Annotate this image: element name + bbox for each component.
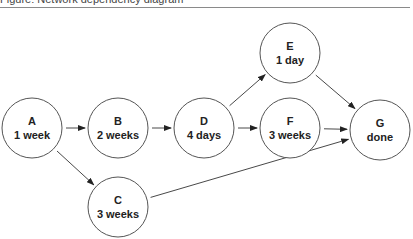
node-e-label: E (286, 40, 293, 52)
node-d-duration: 4 days (187, 129, 221, 141)
node-d: D 4 days (174, 98, 234, 158)
node-b-label: B (114, 115, 122, 127)
node-g: G done (350, 100, 410, 160)
node-g-label: G (376, 117, 385, 129)
node-f-duration: 3 weeks (269, 129, 311, 141)
node-a: A 1 week (2, 98, 62, 158)
network-diagram: A 1 week B 2 weeks C 3 weeks D 4 days E … (0, 0, 413, 239)
node-c: C 3 weeks (88, 177, 148, 237)
node-a-duration: 1 week (14, 129, 51, 141)
node-b-duration: 2 weeks (97, 129, 139, 141)
node-a-label: A (28, 115, 36, 127)
node-b: B 2 weeks (88, 98, 148, 158)
edge-e-g-arrow (316, 75, 355, 108)
node-d-label: D (200, 115, 208, 127)
node-c-duration: 3 weeks (97, 208, 139, 220)
edge-d-e-arrow (230, 75, 266, 106)
edge-f-g-arrow (324, 129, 347, 130)
node-f: F 3 weeks (260, 98, 320, 158)
edge-a-c-arrow (57, 151, 94, 185)
node-c-label: C (114, 194, 122, 206)
node-g-duration: done (367, 131, 393, 143)
node-e-duration: 1 day (276, 54, 305, 66)
node-e: E 1 day (260, 23, 320, 83)
edge-c-g-arrow (151, 139, 349, 197)
node-f-label: F (287, 115, 294, 127)
